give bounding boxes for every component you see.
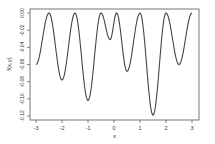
x-tick-label: -1: [86, 125, 91, 131]
x-tick-label: 1: [138, 125, 141, 131]
x-axis-label: x: [113, 133, 116, 139]
x-tick-label: -2: [60, 125, 65, 131]
y-tick-label: -0.12: [19, 110, 25, 122]
line-chart: -3-2-10123 0.00-0.02-0.04-0.06-0.08-0.10…: [0, 0, 215, 144]
y-tick-label: 0.00: [19, 8, 25, 18]
x-tick-label: 2: [164, 125, 167, 131]
y-axis: 0.00-0.02-0.04-0.06-0.08-0.10-0.12: [19, 8, 30, 122]
data-line: [36, 13, 192, 115]
chart-svg: -3-2-10123 0.00-0.02-0.04-0.06-0.08-0.10…: [0, 0, 215, 144]
y-axis-label: f(x,y): [6, 57, 12, 70]
y-tick-label: -0.04: [19, 41, 25, 53]
y-tick-label: -0.10: [19, 93, 25, 105]
y-tick-label: -0.08: [19, 76, 25, 88]
x-tick-label: 3: [190, 125, 193, 131]
plot-frame: [30, 9, 199, 120]
x-tick-label: 0: [112, 125, 115, 131]
x-axis: -3-2-10123: [34, 120, 194, 131]
y-tick-label: -0.02: [19, 24, 25, 36]
y-tick-label: -0.06: [19, 59, 25, 71]
x-tick-label: -3: [34, 125, 39, 131]
